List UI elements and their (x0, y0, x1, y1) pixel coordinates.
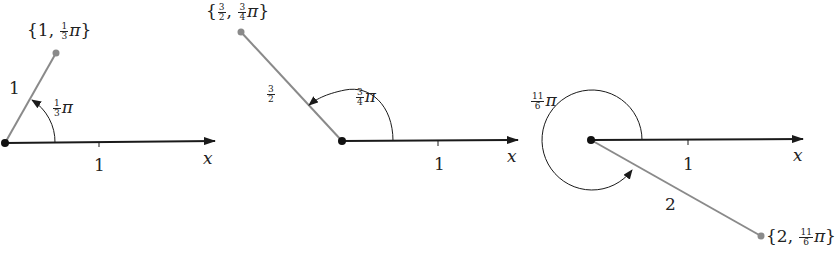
point-label-2: {32, 34π} (206, 3, 269, 22)
angle-label-2: 34π (355, 88, 376, 107)
point-label-1: {1, 13π} (27, 22, 91, 41)
origin-point-2 (338, 137, 346, 145)
angle-label-3: 116π (530, 92, 557, 111)
x-axis-2 (342, 140, 518, 141)
x-axis-3 (591, 139, 803, 140)
angle-fraction: 13 (60, 22, 68, 41)
polar-point-2 (238, 29, 245, 36)
diagram-2 (238, 29, 519, 147)
tick-label-1: 1 (94, 157, 105, 174)
x-axis-1 (5, 141, 215, 143)
brace-open: { (27, 20, 38, 40)
polar-point-1 (53, 50, 60, 57)
tick-label-2: 1 (434, 156, 445, 173)
length-label-1: 1 (9, 80, 20, 97)
ray-3 (591, 140, 761, 236)
axis-label-3: x (793, 147, 803, 164)
polar-point-3 (758, 233, 765, 240)
ray-2 (241, 32, 342, 141)
polar-coordinates-diagram (0, 0, 835, 256)
radius-value: 1 (38, 20, 49, 40)
diagram-3 (542, 90, 803, 240)
angle-label-1: 13π (52, 99, 73, 118)
point-label-3: {2, 116π} (766, 228, 835, 247)
tick-label-3: 1 (683, 156, 694, 173)
origin-point-3 (587, 136, 595, 144)
axis-label-1: x (203, 150, 213, 167)
ray-1 (5, 53, 56, 143)
origin-point-1 (1, 139, 9, 147)
length-label-2: 32 (266, 85, 276, 104)
separator: , (49, 20, 54, 40)
axis-label-2: x (507, 148, 517, 165)
angle-arc-2 (309, 89, 393, 141)
length-label-3: 2 (665, 196, 676, 213)
pi-symbol: π (69, 20, 80, 40)
diagram-1 (1, 50, 215, 148)
brace-close: } (80, 20, 91, 40)
